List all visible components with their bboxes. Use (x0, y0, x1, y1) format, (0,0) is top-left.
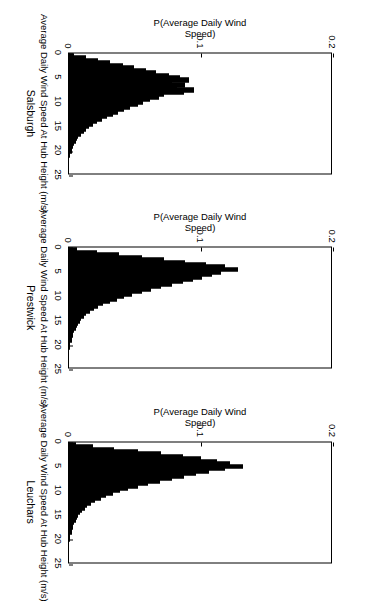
y-axis-title: P(Average Daily Wind Speed) (140, 405, 260, 427)
y-axis-tick (201, 53, 202, 57)
x-axis-tick (69, 369, 73, 370)
x-axis-tick (69, 345, 73, 346)
x-axis-tick-label: 20 (54, 144, 64, 155)
x-axis-tick-label: 20 (54, 339, 64, 350)
x-axis-tick-label: 5 (54, 462, 64, 467)
panel-title: Leuchars (25, 480, 37, 523)
y-axis-tick-label: 0.2 (327, 22, 337, 48)
x-axis-tick-label: 25 (54, 363, 64, 374)
y-axis-tick (333, 442, 334, 446)
x-axis-tick (69, 564, 73, 565)
x-axis-title: Average Daily Wind Speed At Hub Height (… (39, 402, 50, 601)
x-axis-tick (69, 272, 73, 273)
x-axis-tick (69, 77, 73, 78)
x-axis-tick-label: 0 (54, 49, 64, 54)
y-axis-tick (333, 247, 334, 251)
x-axis-tick-label: 5 (54, 74, 64, 79)
y-axis-tick (333, 53, 334, 57)
x-axis-tick-label: 0 (54, 438, 64, 443)
x-axis-tick-label: 25 (54, 169, 64, 180)
x-axis-tick (69, 515, 73, 516)
plot-frame (68, 52, 332, 174)
x-axis-tick (69, 175, 73, 176)
panel-title: Prestwick (25, 285, 37, 330)
histogram-panel-leuchars: 051015202500.10.2Average Daily Wind Spee… (0, 389, 368, 583)
plot-frame (68, 246, 332, 368)
x-axis-tick (69, 126, 73, 127)
x-axis-tick-label: 15 (54, 509, 64, 520)
x-axis-tick-label: 0 (54, 244, 64, 249)
y-axis-tick (69, 247, 70, 251)
x-axis-tick-label: 10 (54, 290, 64, 301)
y-axis-tick-label: 0.2 (327, 411, 337, 437)
y-axis-tick-label: 0 (63, 411, 73, 437)
x-axis-tick (69, 151, 73, 152)
y-axis-tick (201, 442, 202, 446)
y-axis-tick (201, 247, 202, 251)
x-axis-tick-label: 20 (54, 533, 64, 544)
x-axis-tick-label: 5 (54, 268, 64, 273)
histogram-bar (69, 153, 70, 157)
x-axis-tick (69, 296, 73, 297)
x-axis-tick-label: 15 (54, 120, 64, 131)
y-axis-tick-label: 0 (63, 216, 73, 242)
x-axis-tick-label: 25 (54, 557, 64, 568)
histogram-bars (69, 442, 331, 562)
y-axis-title: P(Average Daily Wind Speed) (140, 210, 260, 232)
x-axis-tick (69, 321, 73, 322)
histogram-panel-salsburgh: 051015202500.10.2Average Daily Wind Spee… (0, 0, 368, 194)
panel-title: Salsburgh (25, 89, 37, 136)
histogram-bars (69, 247, 331, 367)
x-axis-tick (69, 539, 73, 540)
y-axis-title: P(Average Daily Wind Speed) (140, 16, 260, 38)
y-axis-tick (69, 442, 70, 446)
x-axis-tick-label: 10 (54, 96, 64, 107)
histogram-panel-prestwick: 051015202500.10.2Average Daily Wind Spee… (0, 194, 368, 388)
x-axis-title: Average Daily Wind Speed At Hub Height (… (39, 14, 50, 213)
histogram-bars (69, 53, 331, 173)
x-axis-title: Average Daily Wind Speed At Hub Height (… (39, 208, 50, 407)
x-axis-tick-label: 10 (54, 484, 64, 495)
x-axis-tick (69, 466, 73, 467)
y-axis-tick (69, 53, 70, 57)
y-axis-tick-label: 0 (63, 22, 73, 48)
x-axis-tick-label: 15 (54, 314, 64, 325)
x-axis-tick (69, 102, 73, 103)
x-axis-tick (69, 490, 73, 491)
y-axis-tick-label: 0.2 (327, 216, 337, 242)
plot-frame (68, 441, 332, 563)
